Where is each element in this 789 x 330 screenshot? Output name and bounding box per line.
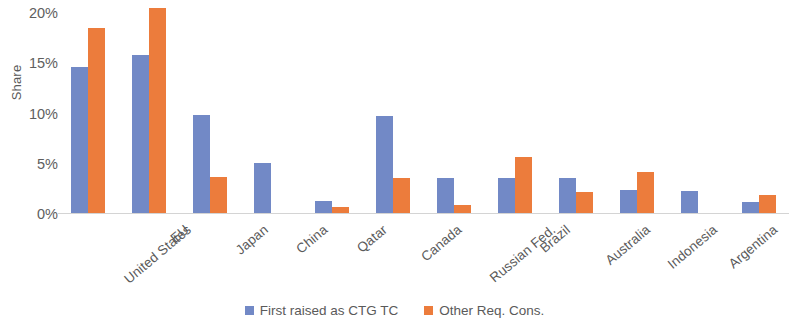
bar — [88, 28, 105, 213]
bar — [759, 195, 776, 213]
bar — [559, 178, 576, 213]
x-axis-label: China — [294, 222, 331, 256]
legend-label: First raised as CTG TC — [260, 303, 399, 318]
bar-group — [424, 0, 485, 213]
bar — [681, 191, 698, 213]
legend-swatch-icon — [424, 306, 433, 315]
bar-group — [302, 0, 363, 213]
bar-group — [606, 0, 667, 213]
bar — [149, 8, 166, 213]
x-axis-label: Japan — [233, 222, 271, 257]
bar — [576, 192, 593, 213]
bar — [71, 67, 88, 213]
bar — [620, 190, 637, 213]
bar-group — [241, 0, 302, 213]
bar-group — [58, 0, 119, 213]
bar-group — [180, 0, 241, 213]
bar — [498, 178, 515, 213]
bar-group — [484, 0, 545, 213]
y-axis-tick-20: 20% — [6, 6, 58, 21]
bar — [393, 178, 410, 213]
legend-swatch-icon — [245, 306, 254, 315]
y-axis-tick-10: 10% — [6, 107, 58, 122]
bar — [515, 157, 532, 213]
bar-group — [363, 0, 424, 213]
bar — [254, 163, 271, 213]
bar-group — [119, 0, 180, 213]
bar-group — [728, 0, 789, 213]
bar-group — [545, 0, 606, 213]
legend-item[interactable]: First raised as CTG TC — [245, 303, 399, 318]
bar — [210, 177, 227, 213]
x-axis-label: Qatar — [354, 222, 390, 256]
y-axis-tick-0: 0% — [6, 207, 58, 222]
bar — [315, 201, 332, 213]
plot-area — [58, 0, 789, 214]
bar-group — [667, 0, 728, 213]
bar — [132, 55, 149, 213]
bar — [376, 116, 393, 213]
x-axis-category-labels: United StatesEUJapanChinaQatarCanadaRuss… — [58, 214, 789, 300]
bar-chart: Share 20%15%10%5%0% United StatesEUJapan… — [0, 0, 789, 330]
x-axis-label: Argentina — [725, 222, 780, 271]
bar — [742, 202, 759, 213]
chart-legend: First raised as CTG TCOther Req. Cons. — [0, 303, 789, 318]
bar — [332, 207, 349, 213]
y-axis-tick-5: 5% — [6, 157, 58, 172]
legend-item[interactable]: Other Req. Cons. — [424, 303, 544, 318]
y-axis-tick-labels: 20%15%10%5%0% — [0, 0, 58, 330]
y-axis-tick-15: 15% — [6, 56, 58, 71]
bar — [454, 205, 471, 213]
bar — [637, 172, 654, 213]
x-axis-label: Indonesia — [665, 222, 720, 272]
bar — [437, 178, 454, 213]
x-axis-label: Australia — [602, 222, 653, 268]
bar — [193, 115, 210, 213]
x-axis-label: Canada — [418, 222, 464, 264]
legend-label: Other Req. Cons. — [439, 303, 544, 318]
